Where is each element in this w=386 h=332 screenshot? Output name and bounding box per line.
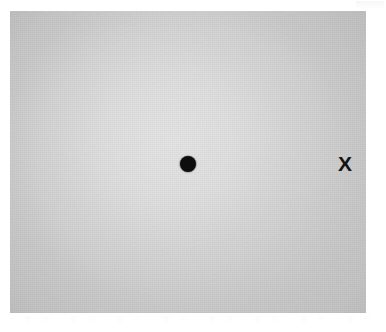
scan-artifact-top-right: [356, 1, 384, 10]
target-x-marker: X: [338, 153, 352, 174]
figure-canvas: X: [0, 0, 386, 332]
scan-artifact-bottom-band: [18, 316, 370, 328]
fixation-dot-marker: [180, 156, 196, 172]
